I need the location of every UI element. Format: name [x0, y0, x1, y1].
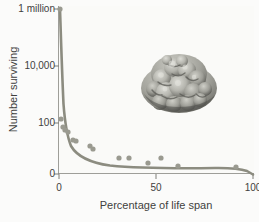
x-axis-title: Percentage of life span — [58, 200, 254, 211]
x-tick-0: 0 — [56, 183, 62, 193]
y-tick-0: 0 — [49, 169, 55, 179]
data-points — [57, 6, 238, 169]
y-tick-10000: 10,000 — [24, 61, 55, 71]
x-axis-ticks — [59, 174, 253, 179]
x-tick-50: 50 — [150, 183, 161, 193]
y-tick-1-million: 1 million — [18, 4, 55, 14]
y-tick-100: 100 — [38, 118, 55, 128]
fitted-survival-curve — [60, 9, 253, 175]
survival-curve-figure: verso text bleeding through the scanned … — [0, 0, 259, 222]
y-axis-title: Number surviving — [8, 30, 19, 150]
x-tick-100: 100 — [245, 183, 259, 193]
